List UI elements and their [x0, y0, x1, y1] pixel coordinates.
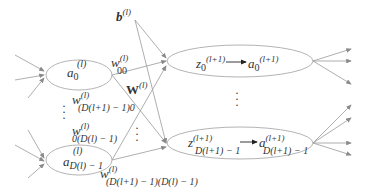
label-aD-sup: (l)	[73, 146, 82, 156]
label-a0-next: a0(l+1)	[248, 57, 279, 70]
label-wDD-sub: (D(l+1) − 1)(D(l) − 1)	[106, 177, 198, 187]
label-a0-sup: (l)	[77, 59, 86, 69]
ellipsis-middle: ···	[134, 125, 140, 143]
ellipsis-left: ···	[61, 103, 67, 121]
label-bias: b(l)	[116, 10, 131, 23]
ellipsis-right: ···	[234, 90, 240, 108]
label-zD-sub: D(l+1) − 1	[195, 146, 240, 156]
label-w00-sub: 00	[117, 66, 127, 76]
label-z0: z0(l+1)	[196, 57, 225, 70]
label-w0D-sub: 0(D(l) − 1)	[72, 134, 117, 144]
label-weights: W(l)	[126, 83, 148, 96]
node-z0-a0	[167, 45, 313, 77]
network-edges	[0, 0, 368, 195]
label-wD0-sub: (D(l+1) − 1)0	[78, 103, 135, 113]
label-aD-next-sub: D(l+1) − 1	[263, 146, 308, 156]
label-aD: aD(l) − 1	[63, 155, 103, 168]
